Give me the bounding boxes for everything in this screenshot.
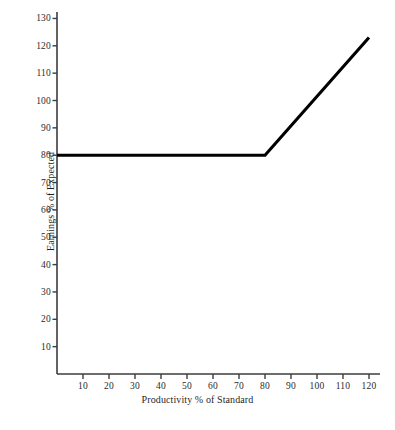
x-tick-label: 30 bbox=[130, 381, 140, 391]
y-tick-label: 20 bbox=[18, 314, 51, 324]
x-tick-label: 100 bbox=[310, 381, 325, 391]
x-tick-label: 40 bbox=[156, 381, 166, 391]
y-axis-title: Earnings % of Expected bbox=[45, 122, 56, 282]
y-tick-label: 130 bbox=[18, 13, 51, 23]
x-tick-label: 120 bbox=[362, 381, 377, 391]
y-tick-label: 30 bbox=[18, 287, 51, 297]
x-tick-label: 110 bbox=[336, 381, 351, 391]
x-tick-label: 20 bbox=[104, 381, 114, 391]
y-tick-label: 120 bbox=[18, 41, 51, 51]
data-series-line bbox=[57, 38, 369, 156]
x-tick-label: 10 bbox=[78, 381, 88, 391]
y-tick-label: 110 bbox=[18, 68, 51, 78]
x-tick-label: 90 bbox=[286, 381, 296, 391]
y-tick-label: 100 bbox=[18, 96, 51, 106]
x-tick-label: 80 bbox=[260, 381, 270, 391]
x-tick-label: 70 bbox=[234, 381, 244, 391]
figure-container: 1020304050607080901001101201301020304050… bbox=[0, 0, 395, 430]
x-tick-label: 50 bbox=[182, 381, 192, 391]
x-axis-title: Productivity % of Standard bbox=[0, 394, 395, 405]
y-tick-label: 10 bbox=[18, 342, 51, 352]
x-tick-label: 60 bbox=[208, 381, 218, 391]
chart-canvas bbox=[0, 0, 395, 430]
